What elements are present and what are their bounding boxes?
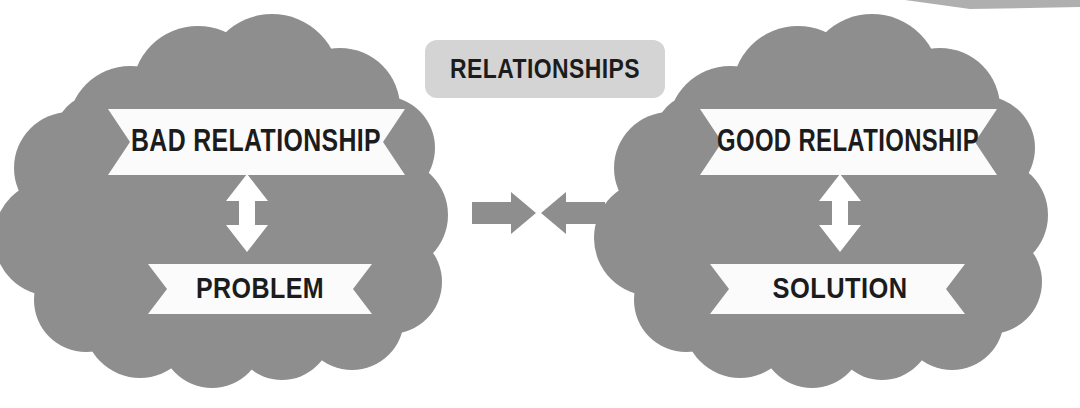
relationships-chip-label: RELATIONSHIPS [450, 54, 640, 84]
text-layer: RELATIONSHIPS BAD RELATIONSHIP PROBLEM G… [0, 0, 1080, 408]
problem-label: PROBLEM [196, 271, 324, 304]
diagram-canvas: RELATIONSHIPS BAD RELATIONSHIP PROBLEM G… [0, 0, 1080, 408]
good-relationship-label: GOOD RELATIONSHIP [717, 122, 979, 158]
solution-label: SOLUTION [773, 271, 908, 304]
bad-relationship-label: BAD RELATIONSHIP [131, 122, 381, 158]
